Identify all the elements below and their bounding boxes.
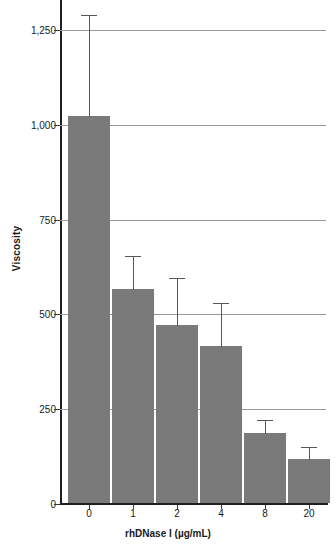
bar-2 — [156, 325, 198, 503]
y-axis-tick-labels: 1,250 1,000 750 500 250 0 — [0, 0, 56, 551]
y-tick-label: 500 — [0, 309, 56, 320]
bar-0 — [68, 116, 110, 503]
x-tick-label: 0 — [86, 508, 92, 519]
bar-chart: Viscosity 1,250 1,000 750 500 250 0 — [0, 0, 336, 551]
bar-1 — [112, 289, 154, 503]
y-tickmark — [54, 504, 60, 505]
x-axis-title: rhDNase I (µg/mL) — [0, 528, 336, 539]
x-tick-label: 2 — [174, 508, 180, 519]
errorbar-line-5 — [309, 447, 310, 460]
errorbar-line-3 — [221, 303, 222, 347]
x-tick-label: 4 — [218, 508, 224, 519]
errorbar-line-1 — [133, 256, 134, 290]
errorbar-cap-5 — [301, 447, 317, 448]
y-tick-label: 1,250 — [0, 25, 56, 36]
errorbar-line-4 — [265, 420, 266, 434]
errorbar-cap-3 — [213, 303, 229, 304]
y-tick-label: 250 — [0, 404, 56, 415]
plot-area — [60, 30, 326, 504]
bars-layer — [60, 30, 326, 504]
errorbar-cap-1 — [125, 256, 141, 257]
errorbar-line-0 — [89, 15, 90, 117]
errorbar-cap-0 — [81, 15, 97, 16]
errorbar-cap-2 — [169, 278, 185, 279]
x-axis-tick-labels: 0 1 2 4 8 20 — [60, 508, 326, 524]
y-tick-label: 0 — [0, 499, 56, 510]
bar-5 — [288, 459, 330, 503]
errorbar-line-2 — [177, 278, 178, 325]
bar-3 — [200, 346, 242, 503]
bar-4 — [244, 433, 286, 503]
y-tick-label: 750 — [0, 214, 56, 225]
y-tick-label: 1,000 — [0, 119, 56, 130]
x-tick-label: 20 — [303, 508, 314, 519]
x-tick-label: 1 — [130, 508, 136, 519]
errorbar-cap-4 — [257, 420, 273, 421]
x-tick-label: 8 — [262, 508, 268, 519]
